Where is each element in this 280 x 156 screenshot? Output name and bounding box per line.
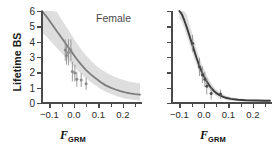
y-tick-label: 5 — [29, 21, 35, 32]
x-axis-subscript-female: GRM — [68, 135, 86, 144]
y-tick — [37, 103, 41, 104]
x-tick — [253, 104, 254, 108]
x-tick — [135, 104, 136, 107]
panel-tag-female: Female — [96, 12, 131, 24]
x-tick-label: −0.1 — [170, 109, 189, 120]
panel-female: Lifetime BS 0123456−0.10.00.10.2 Female … — [0, 0, 146, 156]
x-tick — [179, 104, 180, 108]
x-tick — [49, 104, 50, 108]
x-axis-title-male: FGRM — [146, 128, 280, 144]
chart-canvas-male — [172, 11, 270, 103]
x-tick-label: 0.1 — [92, 109, 105, 120]
plot-area-male: −0.10.00.10.2 — [172, 11, 270, 103]
x-tick — [62, 104, 63, 107]
y-tick — [37, 72, 41, 73]
y-axis-title: Lifetime BS — [11, 7, 23, 117]
y-tick-label: 6 — [29, 6, 35, 17]
chart-canvas-female — [42, 11, 140, 103]
y-tick-label: 2 — [29, 67, 35, 78]
y-tick-label: 3 — [29, 52, 35, 63]
x-tick — [111, 104, 112, 107]
y-tick-label: 0 — [29, 98, 35, 109]
x-tick-label: 0.2 — [116, 109, 129, 120]
x-tick — [86, 104, 87, 107]
y-tick — [167, 57, 171, 58]
y-tick — [37, 57, 41, 58]
y-tick — [167, 103, 171, 104]
x-axis-variable-male: F — [200, 128, 208, 142]
x-tick — [204, 104, 205, 108]
x-tick — [216, 104, 217, 107]
x-tick-label: 0.1 — [222, 109, 235, 120]
y-tick-label: 1 — [29, 82, 35, 93]
x-tick — [123, 104, 124, 108]
x-tick — [265, 104, 266, 107]
x-axis-spine-male — [171, 102, 272, 103]
x-tick — [192, 104, 193, 107]
x-axis-variable-female: F — [60, 128, 68, 142]
panel-male: −0.10.00.10.2 Male FGRM — [146, 0, 280, 156]
x-tick-label: 0.0 — [197, 109, 210, 120]
y-axis-spine-male — [171, 11, 172, 103]
plot-area-female: 0123456−0.10.00.10.2 — [42, 11, 140, 103]
y-tick — [167, 26, 171, 27]
x-tick — [98, 104, 99, 108]
x-tick — [228, 104, 229, 108]
x-tick-label: 0.0 — [67, 109, 80, 120]
figure-root: Lifetime BS 0123456−0.10.00.10.2 Female … — [0, 0, 280, 156]
x-axis-title-female: FGRM — [0, 128, 146, 144]
x-axis-spine-female — [41, 102, 142, 103]
y-tick — [167, 88, 171, 89]
y-tick — [167, 11, 171, 12]
y-tick — [37, 42, 41, 43]
y-axis-spine-female — [41, 11, 42, 103]
y-tick — [167, 72, 171, 73]
y-tick — [37, 11, 41, 12]
y-tick-label: 4 — [29, 36, 35, 47]
y-tick — [37, 88, 41, 89]
y-tick — [167, 42, 171, 43]
x-tick — [74, 104, 75, 108]
x-tick-label: −0.1 — [40, 109, 59, 120]
x-tick-label: 0.2 — [246, 109, 259, 120]
y-tick — [37, 26, 41, 27]
x-tick — [241, 104, 242, 107]
x-axis-subscript-male: GRM — [208, 135, 226, 144]
